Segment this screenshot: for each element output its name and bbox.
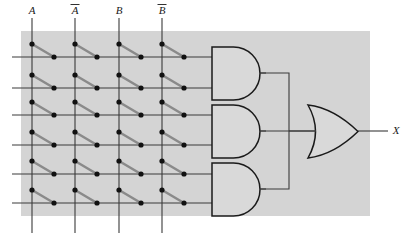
row-dot-r4-c2 <box>94 142 99 147</box>
row-dot-r5-c2 <box>94 171 99 176</box>
row-dot-r6-c1 <box>51 200 56 205</box>
column-dot-r1-c3 <box>116 41 121 46</box>
row-dot-r3-c2 <box>94 112 99 117</box>
input-label-1: A <box>28 4 36 16</box>
row-dot-r3-c3 <box>138 112 143 117</box>
column-dot-r4-c2 <box>72 129 77 134</box>
row-dot-r5-c3 <box>138 171 143 176</box>
column-dot-r5-c1 <box>29 158 34 163</box>
row-dot-r2-c4 <box>181 85 186 90</box>
row-dot-r1-c4 <box>181 54 186 59</box>
pla-logic-diagram: AABBX <box>0 0 413 241</box>
column-dot-r2-c1 <box>29 72 34 77</box>
input-label-4: B <box>159 4 166 16</box>
and-gate-2[interactable] <box>212 105 260 158</box>
column-dot-r3-c1 <box>29 99 34 104</box>
column-dot-r6-c3 <box>116 187 121 192</box>
row-dot-r2-c1 <box>51 85 56 90</box>
column-dot-r5-c2 <box>72 158 77 163</box>
row-dot-r1-c2 <box>94 54 99 59</box>
row-dot-r2-c2 <box>94 85 99 90</box>
column-dot-r1-c2 <box>72 41 77 46</box>
column-dot-r3-c4 <box>159 99 164 104</box>
row-dot-r4-c1 <box>51 142 56 147</box>
column-dot-r2-c2 <box>72 72 77 77</box>
column-dot-r2-c4 <box>159 72 164 77</box>
input-label-3: B <box>116 4 123 16</box>
figure-canvas: AABBX <box>0 0 413 241</box>
column-dot-r3-c2 <box>72 99 77 104</box>
column-dot-r4-c4 <box>159 129 164 134</box>
column-dot-r4-c3 <box>116 129 121 134</box>
input-label-2: A <box>71 4 79 16</box>
column-dot-r1-c1 <box>29 41 34 46</box>
row-dot-r3-c4 <box>181 112 186 117</box>
row-dot-r5-c1 <box>51 171 56 176</box>
and-gate-3[interactable] <box>212 163 260 216</box>
column-dot-r4-c1 <box>29 129 34 134</box>
column-dot-r6-c4 <box>159 187 164 192</box>
row-dot-r6-c3 <box>138 200 143 205</box>
row-dot-r4-c4 <box>181 142 186 147</box>
row-dot-r6-c4 <box>181 200 186 205</box>
row-dot-r6-c2 <box>94 200 99 205</box>
output-label-x: X <box>392 124 401 136</box>
row-dot-r3-c1 <box>51 112 56 117</box>
row-dot-r2-c3 <box>138 85 143 90</box>
column-dot-r5-c4 <box>159 158 164 163</box>
and-gate-1[interactable] <box>212 47 260 100</box>
column-dot-r2-c3 <box>116 72 121 77</box>
column-dot-r5-c3 <box>116 158 121 163</box>
column-dot-r6-c2 <box>72 187 77 192</box>
column-dot-r3-c3 <box>116 99 121 104</box>
row-dot-r1-c1 <box>51 54 56 59</box>
row-dot-r5-c4 <box>181 171 186 176</box>
row-dot-r1-c3 <box>138 54 143 59</box>
column-dot-r1-c4 <box>159 41 164 46</box>
column-dot-r6-c1 <box>29 187 34 192</box>
row-dot-r4-c3 <box>138 142 143 147</box>
